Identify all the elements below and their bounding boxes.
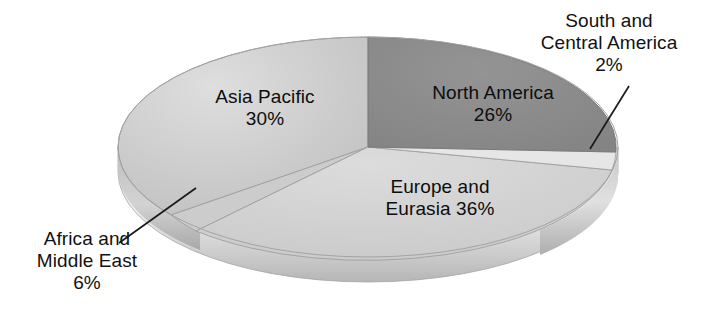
slice-label-south-central-america-line2: Central America — [500, 32, 718, 54]
slice-label-south-central-america-line1: South and — [500, 10, 718, 32]
slice-label-south-central-america-line3: 2% — [500, 54, 718, 76]
slice-label-north-america-line2: 26% — [398, 104, 588, 126]
slice-label-south-central-america: South and Central America 2% — [500, 10, 718, 76]
slice-label-asia-pacific: Asia Pacific 30% — [170, 86, 360, 130]
slice-label-africa-middle-east-line2: Middle East — [2, 250, 172, 272]
slice-label-asia-pacific-line2: 30% — [170, 108, 360, 130]
slice-label-europe-eurasia: Europe and Eurasia 36% — [340, 176, 540, 220]
slice-label-africa-middle-east-line1: Africa and — [2, 228, 172, 250]
slice-label-north-america: North America 26% — [398, 82, 588, 126]
slice-label-asia-pacific-line1: Asia Pacific — [170, 86, 360, 108]
slice-label-africa-middle-east-line3: 6% — [2, 272, 172, 294]
pie-chart: North America 26% Asia Pacific 30% Europ… — [0, 0, 718, 316]
slice-label-north-america-line1: North America — [398, 82, 588, 104]
slice-label-africa-middle-east: Africa and Middle East 6% — [2, 228, 172, 294]
slice-label-europe-eurasia-line2: Eurasia 36% — [340, 198, 540, 220]
slice-label-europe-eurasia-line1: Europe and — [340, 176, 540, 198]
